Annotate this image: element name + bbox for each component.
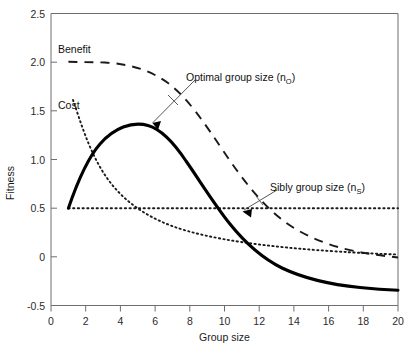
y-tick-marks bbox=[51, 14, 57, 306]
x-tick-label: 8 bbox=[187, 315, 193, 327]
axis-frame bbox=[51, 14, 398, 306]
fitness-group-size-chart: 2.5 2.0 1.5 1.0 0.5 0 -0.5 0 2 4 6 8 10 … bbox=[0, 0, 419, 351]
benefit-label: Benefit bbox=[58, 43, 91, 55]
y-tick-label: 0 bbox=[39, 251, 45, 263]
x-tick-label: 12 bbox=[253, 315, 265, 327]
chart-svg: 2.5 2.0 1.5 1.0 0.5 0 -0.5 0 2 4 6 8 10 … bbox=[0, 0, 419, 351]
optimal-prefix-text: Optimal group size (n bbox=[186, 71, 286, 83]
y-tick-label: 0.5 bbox=[30, 202, 45, 214]
x-tick-marks bbox=[51, 306, 398, 312]
x-tick-label: 0 bbox=[48, 315, 54, 327]
x-axis-title: Group size bbox=[199, 331, 250, 343]
x-tick-label: 2 bbox=[83, 315, 89, 327]
sibly-group-size-label: Sibly group size (nS) bbox=[270, 181, 365, 196]
x-tick-label: 16 bbox=[323, 315, 335, 327]
optimal-group-size-label: Optimal group size (nO) bbox=[186, 71, 295, 86]
y-tick-label: 1.5 bbox=[30, 105, 45, 117]
y-axis-title: Fitness bbox=[4, 166, 16, 200]
sibly-arrowhead bbox=[243, 209, 253, 218]
cost-label: Cost bbox=[58, 99, 80, 111]
y-tick-labels: 2.5 2.0 1.5 1.0 0.5 0 -0.5 bbox=[27, 8, 45, 312]
x-tick-labels: 0 2 4 6 8 10 12 14 16 18 20 bbox=[48, 315, 404, 327]
sibly-group-size-annotation: Sibly group size (nS) bbox=[243, 181, 365, 218]
x-tick-label: 4 bbox=[117, 315, 123, 327]
optimal-group-size-annotation: Optimal group size (nO) bbox=[153, 71, 296, 130]
optimal-suffix-text: ) bbox=[292, 71, 296, 83]
x-tick-label: 14 bbox=[288, 315, 300, 327]
fitness-curve bbox=[68, 124, 398, 290]
x-tick-label: 10 bbox=[219, 315, 231, 327]
y-tick-label: 2.5 bbox=[30, 8, 45, 20]
x-tick-label: 18 bbox=[357, 315, 369, 327]
x-tick-label: 20 bbox=[392, 315, 404, 327]
x-tick-label: 6 bbox=[152, 315, 158, 327]
sibly-suffix-text: ) bbox=[361, 181, 365, 193]
sibly-prefix-text: Sibly group size (n bbox=[270, 181, 357, 193]
y-tick-label: 1.0 bbox=[30, 154, 45, 166]
y-tick-label: -0.5 bbox=[27, 300, 45, 312]
y-tick-label: 2.0 bbox=[30, 56, 45, 68]
